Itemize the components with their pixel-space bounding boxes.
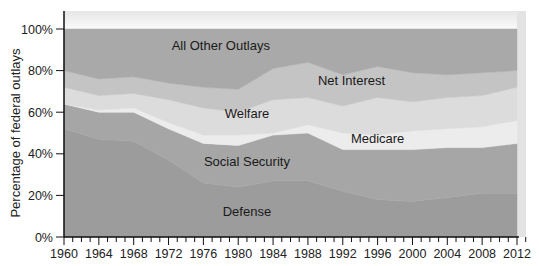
label-medicare: Medicare [351, 131, 404, 146]
area-bands [64, 29, 517, 237]
x-tick-label: 1976 [189, 247, 217, 261]
x-tick-label: 2008 [468, 247, 496, 261]
x-tick-label: 1984 [259, 247, 287, 261]
x-tick-label: 1968 [120, 247, 148, 261]
label-defense: Defense [223, 204, 271, 219]
plot-frame-right [517, 11, 526, 237]
y-tick-label: 100% [21, 23, 53, 37]
y-tick-label: 0% [35, 231, 53, 245]
x-tick-label: 1988 [294, 247, 322, 261]
y-tick-label: 80% [28, 64, 53, 78]
x-tick-label: 2012 [503, 247, 531, 261]
x-tick-label: 1980 [224, 247, 252, 261]
x-tick-label: 1964 [85, 247, 113, 261]
y-axis-ticks: 0%20%40%60%80%100% [21, 23, 64, 245]
label-welfare: Welfare [225, 106, 270, 121]
label-all-other-outlays: All Other Outlays [172, 38, 271, 53]
x-tick-label: 2000 [399, 247, 427, 261]
label-social-security: Social Security [204, 154, 290, 169]
x-tick-label: 1996 [364, 247, 392, 261]
x-tick-label: 1960 [50, 247, 78, 261]
plot-frame-top [64, 11, 526, 29]
x-tick-label: 2004 [433, 247, 461, 261]
x-tick-label: 1992 [329, 247, 357, 261]
y-tick-label: 20% [28, 189, 53, 203]
x-axis-ticks: 1960196419681972197619801984198819921996… [50, 237, 531, 261]
y-axis-title: Percentage of federal outlays [8, 48, 23, 218]
stacked-area-chart: All Other OutlaysNet InterestWelfareMedi… [0, 0, 539, 266]
y-tick-label: 60% [28, 106, 53, 120]
x-tick-label: 1972 [155, 247, 183, 261]
y-tick-label: 40% [28, 147, 53, 161]
label-net-interest: Net Interest [318, 73, 386, 88]
